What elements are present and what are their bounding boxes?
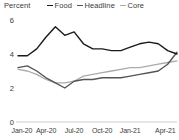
legend-swatch-core-icon (120, 5, 126, 6)
x-tick-jan-21: Jan-21 (120, 127, 141, 134)
x-tick-apr-20: Apr-20 (36, 127, 56, 134)
y-tick-0: 0 (10, 118, 14, 127)
chart-legend: FoodHeadlineCore (47, 1, 144, 10)
series-line-food (18, 27, 177, 56)
x-tick-jan-20: Jan-20 (12, 127, 33, 134)
legend-item-headline[interactable]: Headline (77, 1, 115, 10)
x-tick-oct-20: Oct-20 (92, 127, 112, 134)
x-axis-tick-labels: Jan-20Apr-20Jul-20Oct-20Jan-21Apr-21 (0, 127, 179, 140)
legend-item-core[interactable]: Core (120, 1, 144, 10)
plot-svg (0, 14, 179, 126)
y-tick-2: 2 (10, 84, 14, 93)
x-tick-apr-21: Apr-21 (155, 127, 175, 134)
inflation-line-chart: Percent FoodHeadlineCore 0246 Jan-20Apr-… (0, 0, 179, 140)
chart-header: Percent FoodHeadlineCore (0, 0, 179, 14)
y-axis-tick-labels: 0246 (0, 14, 16, 126)
x-tick-jul-20: Jul-20 (65, 127, 83, 134)
legend-label: Food (55, 1, 73, 10)
legend-swatch-food-icon (47, 5, 53, 6)
plot-area (0, 14, 179, 126)
series-line-headline (18, 52, 177, 88)
y-axis-unit-label: Percent (4, 1, 31, 10)
legend-label: Core (127, 1, 144, 10)
legend-item-food[interactable]: Food (47, 1, 72, 10)
y-tick-4: 4 (10, 50, 14, 59)
y-tick-6: 6 (10, 16, 14, 25)
legend-swatch-headline-icon (77, 5, 83, 6)
legend-label: Headline (85, 1, 115, 10)
